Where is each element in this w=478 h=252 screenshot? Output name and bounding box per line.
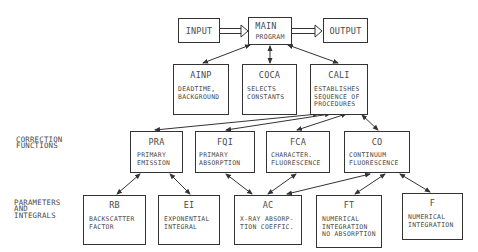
fca-title: FCA [267,137,329,147]
cali-pra-link [155,114,318,130]
ei-box: EI EXPONENTIAL INTEGRAL [158,195,220,245]
pra-desc: PRIMARY EMISSION [137,152,180,167]
rb-desc: BACKSCATTER FACTOR [89,216,143,231]
cali-desc: ESTABLISHES SEQUENCE OF PROCEDURES [314,86,365,109]
rb-box: RB BACKSCATTER FACTOR [83,195,146,245]
cali-box: CALI ESTABLISHES SEQUENCE OF PROCEDURES [310,64,368,115]
ac-desc: X-RAY ABSORP- TION COEFFIC. [240,216,299,231]
input-title: INPUT [179,26,219,36]
main-subtitle: PROGRAM [249,33,291,41]
pra-rb-link [117,174,140,194]
output-title: OUTPUT [324,26,367,36]
fqi-box: FQI PRIMARY ABSORPTION [195,131,255,173]
main-title: MAIN [241,21,291,31]
ainp-box: AINP DEADTIME, BACKGROUND [173,64,229,115]
ft-desc: NUMERICAL INTEGRATION NO ABSORPTION [322,216,379,239]
ei-desc: EXPONENTIAL INTEGRAL [164,216,217,231]
coca-desc: SELECTS CONSTANTS [247,86,294,101]
f-title: F [403,198,462,208]
coca-title: COCA [243,70,296,80]
co-ac-link [287,174,370,194]
co-title: CO [345,137,409,147]
coca-box: COCA SELECTS CONSTANTS [242,64,297,115]
rb-title: RB [84,200,145,210]
ei-title: EI [159,200,219,210]
fqi-title: FQI [196,137,254,147]
output-box: OUTPUT [323,18,368,43]
fqi-desc: PRIMARY ABSORPTION [199,152,252,167]
fca-ac-link [268,174,296,194]
fca-box: FCA CHARACTER. FLUORESCENCE [266,131,330,173]
main-program-box: MAIN PROGRAM [248,17,292,45]
f-desc: NUMERICAL INTEGRATION [408,214,460,229]
input-box: INPUT [178,18,220,43]
co-box: CO CONTINUUM FLUORESCENCE [344,131,410,173]
main-ainp-link [203,45,250,63]
parameters-integrals-label: PARAMETERS AND INTEGRALS [14,200,61,219]
co-f-link [400,174,430,192]
correction-functions-label: CORRECTION FUNCTIONS [16,137,63,150]
ac-title: AC [235,200,301,210]
fqi-ac-link [226,174,252,194]
pra-title: PRA [131,137,182,147]
cali-title: CALI [311,70,367,80]
cali-co-link [362,115,378,130]
ac-box: AC X-RAY ABSORP- TION COEFFIC. [234,195,302,245]
ainp-title: AINP [174,70,228,80]
main-cali-link [288,45,338,63]
main-to-output-arrow [292,25,322,37]
fca-desc: CHARACTER. FLUORESCENCE [271,152,327,167]
co-desc: CONTINUUM FLUORESCENCE [349,152,407,167]
ainp-desc: DEADTIME, BACKGROUND [178,86,226,101]
ft-title: FT [317,200,381,210]
f-box: F NUMERICAL INTEGRATION [402,193,463,240]
pra-ei-link [170,174,190,194]
pra-box: PRA PRIMARY EMISSION [130,131,183,173]
cali-fca-link [297,114,346,130]
ft-box: FT NUMERICAL INTEGRATION NO ABSORPTION [316,195,382,248]
